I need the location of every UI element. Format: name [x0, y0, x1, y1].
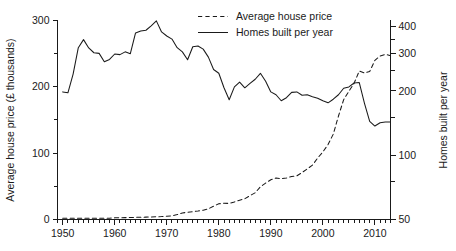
svg-text:Homes built per year: Homes built per year — [437, 71, 449, 168]
chart-container: 0100200300 50100200300400 19501960197019… — [0, 0, 456, 251]
chart-legend: Average house price Homes built per year — [198, 10, 333, 38]
axis-right: 50100200300400 — [391, 20, 417, 225]
x-axis-tick-label: 1980 — [207, 227, 231, 239]
y2-axis-tick-label: 100 — [399, 149, 417, 161]
y2-axis-tick-label: 200 — [399, 85, 417, 97]
series-homes-built-per-year — [63, 21, 391, 126]
axis-left: 0100200300 — [32, 14, 58, 226]
series-average-house-price — [63, 54, 391, 218]
plot-series — [63, 21, 391, 218]
x-axis-tick-label: 2000 — [311, 227, 335, 239]
legend-label-homes-built-per-year: Homes built per year — [236, 26, 333, 38]
axis-bottom: 1950196019701980199020002010 — [51, 220, 390, 239]
y2-axis-tick-label: 300 — [399, 47, 417, 59]
legend-label-average-house-price: Average house price — [236, 10, 332, 22]
y-axis-tick-label: 200 — [32, 80, 50, 92]
y-axis-tick-label: 300 — [32, 14, 50, 26]
x-axis-tick-label: 1970 — [155, 227, 179, 239]
x-axis-tick-label: 1960 — [103, 227, 127, 239]
x-axis-tick-label: 1950 — [51, 227, 75, 239]
axis-title-left: Average house price (£ thousands) — [4, 38, 16, 201]
x-axis-tick-label: 2010 — [363, 227, 387, 239]
y2-axis-tick-label: 50 — [399, 213, 411, 225]
chart-canvas: 0100200300 50100200300400 19501960197019… — [0, 0, 456, 251]
x-axis-tick-label: 1990 — [259, 227, 283, 239]
y-axis-tick-label: 0 — [44, 213, 50, 225]
axis-title-right: Homes built per year — [437, 71, 449, 168]
svg-text:Average house price (£ thousan: Average house price (£ thousands) — [4, 38, 16, 201]
y2-axis-tick-label: 400 — [399, 20, 417, 32]
y-axis-tick-label: 100 — [32, 147, 50, 159]
